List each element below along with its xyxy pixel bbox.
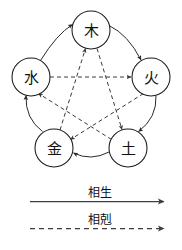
node-wood[interactable]: 木 [72,11,110,49]
node-earth-label: 土 [121,140,136,158]
node-fire[interactable]: 火 [132,58,170,96]
node-water[interactable]: 水 [12,58,50,96]
node-earth[interactable]: 土 [109,129,147,167]
node-metal[interactable]: 金 [35,129,73,167]
legend-generation-label: 相生 [88,186,112,200]
node-water-label: 水 [24,69,39,87]
node-fire-label: 火 [144,69,159,87]
node-wood-label: 木 [84,22,99,40]
wu-xing-diagram: 木 火 土 金 水 相生 相剋 [0,0,182,250]
node-metal-label: 金 [47,140,62,158]
legend-overcoming-label: 相剋 [88,213,112,227]
